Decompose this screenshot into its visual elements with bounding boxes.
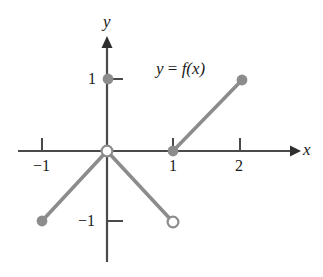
segment-branch-right: [173, 80, 242, 151]
closed-point-1-0: [168, 146, 179, 157]
y-axis-arrow-icon: [102, 36, 113, 48]
plot-canvas: [0, 0, 323, 277]
function-label-operator: =: [164, 59, 182, 78]
open-point-0-0: [102, 146, 113, 157]
y-axis-label: y: [103, 13, 111, 30]
function-label: y = f(x): [156, 60, 205, 77]
function-label-rhs: f(x): [182, 59, 206, 78]
x-tick-label-2: 2: [235, 158, 243, 174]
segment-branch-middle: [107, 151, 173, 222]
x-axis-arrow-icon: [290, 146, 301, 157]
x-tick-label-neg1: −1: [33, 158, 50, 174]
x-axis-label: x: [303, 141, 311, 158]
segment-branch-left: [42, 151, 107, 221]
x-tick-label-1: 1: [169, 158, 177, 174]
function-label-lhs: y: [156, 59, 164, 78]
open-point-1-neg1: [168, 217, 179, 228]
closed-point-neg1-neg1: [37, 216, 48, 227]
y-tick-label-neg1: −1: [78, 213, 95, 229]
closed-point-2-1: [237, 75, 248, 86]
function-graph-figure: x y −1 1 2 1 −1 y = f(x): [0, 0, 323, 277]
y-tick-label-1: 1: [88, 71, 96, 87]
closed-point-0-1: [103, 74, 114, 85]
